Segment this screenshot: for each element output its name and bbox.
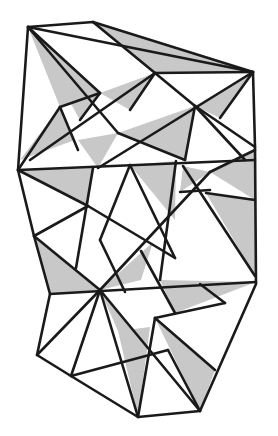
edge bbox=[71, 290, 100, 376]
edge bbox=[155, 73, 195, 106]
triangulated-polygon-diagram bbox=[0, 0, 278, 436]
shaded-triangle bbox=[78, 133, 118, 168]
shaded-triangle bbox=[18, 168, 93, 206]
edge bbox=[37, 290, 100, 355]
edge bbox=[34, 206, 88, 236]
edge bbox=[155, 72, 253, 73]
edge bbox=[180, 190, 210, 192]
shaded-triangle bbox=[210, 150, 255, 200]
